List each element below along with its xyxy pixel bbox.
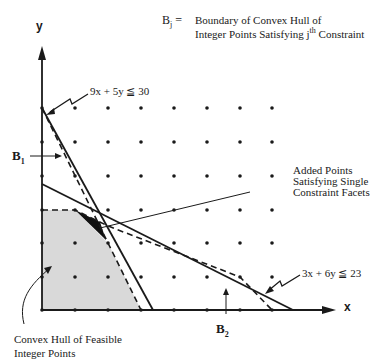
- constraint-1-pointer-arrow-icon: [46, 108, 55, 115]
- lattice-point: [238, 106, 242, 110]
- lattice-point: [172, 241, 176, 245]
- y-axis-arrow-icon: [38, 46, 46, 60]
- b2-label: B2: [216, 323, 229, 340]
- lattice-point: [73, 275, 77, 279]
- b1-label: B1: [12, 150, 25, 167]
- lattice-point: [106, 106, 110, 110]
- lattice-point: [205, 275, 209, 279]
- hull-annotation-1: Convex Hull of Feasible: [14, 334, 122, 345]
- lattice-point: [172, 140, 176, 144]
- x-axis-arrow-icon: [322, 306, 336, 314]
- lattice-point: [238, 140, 242, 144]
- lattice-point: [238, 208, 242, 212]
- lattice-point: [139, 106, 143, 110]
- hull-annotation-2: Integer Points: [14, 348, 75, 359]
- constraint-1-pointer-icon: [50, 94, 88, 112]
- added-points-leader: [100, 192, 250, 228]
- b1-pointer-arrow-icon: [55, 153, 62, 159]
- lattice-point: [270, 275, 274, 279]
- lattice-point: [172, 106, 176, 110]
- lattice-point: [106, 174, 110, 178]
- lattice-point: [139, 140, 143, 144]
- lattice-point: [270, 106, 274, 110]
- lattice-point: [106, 275, 110, 279]
- legend-symbol: Bj =: [162, 15, 182, 30]
- lattice-point: [238, 174, 242, 178]
- lattice-point: [139, 241, 143, 245]
- lattice-point: [139, 174, 143, 178]
- legend-line-2: Integer Points Satisfying jth Constraint: [195, 25, 364, 40]
- x-axis-label: x: [344, 300, 351, 314]
- lattice-point: [270, 241, 274, 245]
- lattice-point: [73, 106, 77, 110]
- lattice-point: [205, 241, 209, 245]
- lattice-point: [139, 208, 143, 212]
- lattice-point: [205, 174, 209, 178]
- lattice-point: [205, 106, 209, 110]
- added-points-annotation-3: Constraint Facets: [293, 187, 370, 198]
- constraint-2-label: 3x + 6y ≦ 23: [302, 268, 361, 279]
- constraint-1-label: 9x + 5y ≦ 30: [90, 86, 149, 97]
- lattice-point: [73, 241, 77, 245]
- y-axis-label: y: [36, 19, 43, 33]
- lattice-point: [270, 174, 274, 178]
- lattice-point: [205, 208, 209, 212]
- lattice-point: [106, 208, 110, 212]
- lattice-point: [270, 208, 274, 212]
- lattice-point: [106, 140, 110, 144]
- lattice-point: [139, 275, 143, 279]
- lattice-point: [238, 241, 242, 245]
- b2-pointer-arrow-icon: [223, 288, 229, 295]
- lattice-point: [270, 140, 274, 144]
- lattice-point: [172, 174, 176, 178]
- lattice-point: [205, 140, 209, 144]
- lattice-point: [172, 275, 176, 279]
- lattice-point: [73, 140, 77, 144]
